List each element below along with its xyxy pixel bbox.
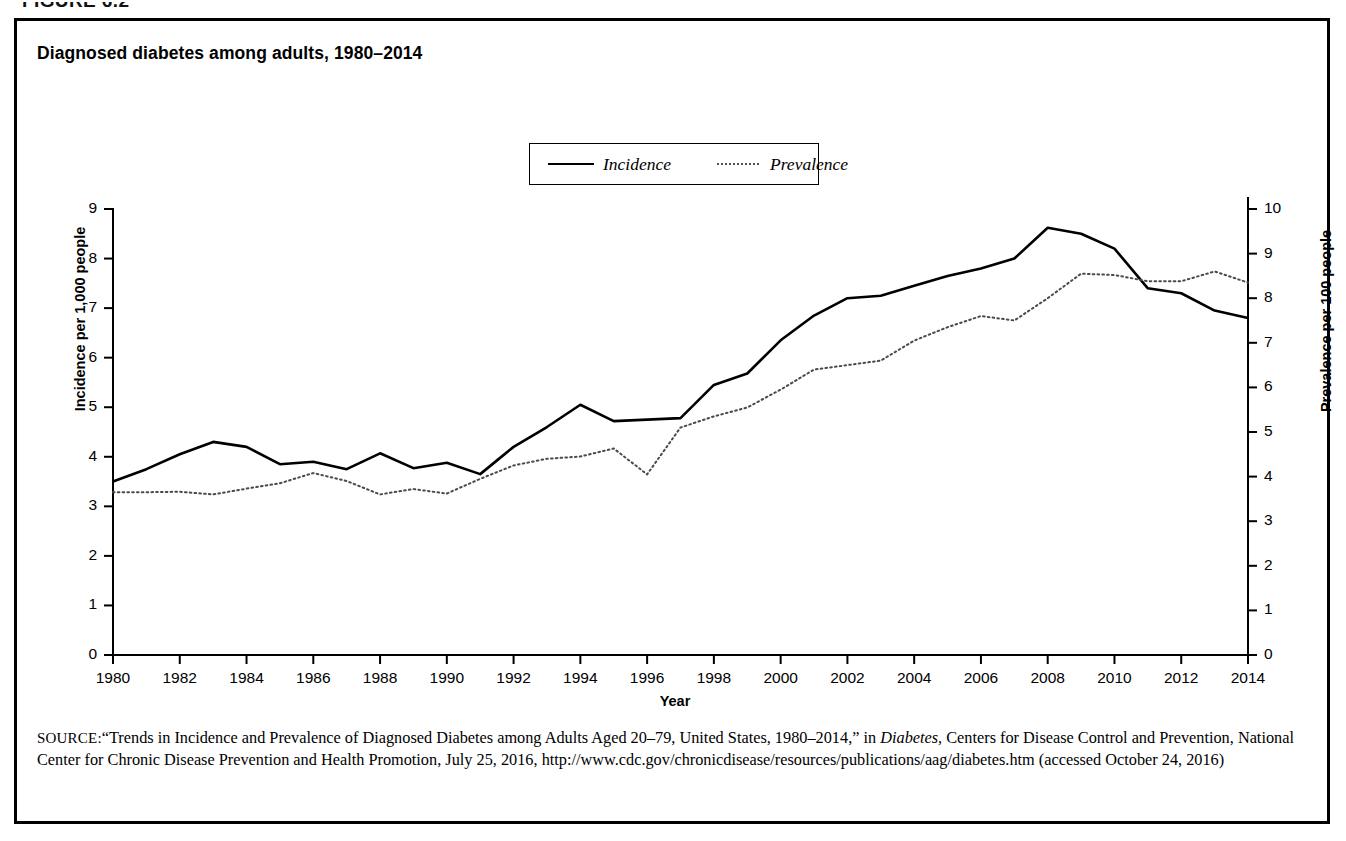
- source-italic-title: Diabetes: [880, 728, 938, 747]
- series-line-incidence: [113, 228, 1248, 482]
- y-axis-right-tick: 7: [1264, 333, 1304, 351]
- plot-area: Incidence per 1,000 people Prevalence pe…: [17, 21, 1333, 827]
- y-axis-left-tick: 7: [57, 298, 97, 316]
- figure-page: FIGURE 6.2 Diagnosed diabetes among adul…: [0, 0, 1346, 841]
- y-axis-right-tick: 5: [1264, 422, 1304, 440]
- y-axis-left-tick: 1: [57, 595, 97, 613]
- x-axis-tick: 1986: [283, 669, 343, 687]
- y-axis-right-tick: 4: [1264, 467, 1304, 485]
- x-axis-tick: 2010: [1084, 669, 1144, 687]
- y-axis-left-tick: 0: [57, 645, 97, 663]
- x-axis-tick: 2002: [817, 669, 877, 687]
- x-axis-tick: 2006: [951, 669, 1011, 687]
- figure-number: FIGURE 6.2: [22, 0, 129, 16]
- x-axis-tick: 1994: [550, 669, 610, 687]
- y-axis-right-tick: 1: [1264, 600, 1304, 618]
- y-axis-left-tick: 9: [57, 199, 97, 217]
- x-axis-tick: 1982: [150, 669, 210, 687]
- x-axis-tick: 1984: [217, 669, 277, 687]
- y-axis-right-tick: 8: [1264, 288, 1304, 306]
- x-axis-tick: 1990: [417, 669, 477, 687]
- y-axis-right-title: Prevalence per 100 people: [1318, 206, 1334, 436]
- x-axis-tick: 2008: [1018, 669, 1078, 687]
- x-axis-tick: 1988: [350, 669, 410, 687]
- y-axis-right-tick: 3: [1264, 511, 1304, 529]
- y-axis-left-tick: 2: [57, 546, 97, 564]
- chart-canvas: [17, 21, 1333, 721]
- x-axis-tick: 1992: [484, 669, 544, 687]
- y-axis-left-tick: 5: [57, 397, 97, 415]
- y-axis-right-tick: 0: [1264, 645, 1304, 663]
- y-axis-right-tick: 10: [1264, 199, 1304, 217]
- source-note: SOURCE:“Trends in Incidence and Prevalen…: [37, 727, 1311, 772]
- x-axis-tick: 2004: [884, 669, 944, 687]
- y-axis-right-tick: 6: [1264, 377, 1304, 395]
- source-label: SOURCE:: [37, 730, 102, 746]
- series-line-prevalence: [113, 271, 1248, 494]
- y-axis-left-tick: 8: [57, 249, 97, 267]
- y-axis-left-tick: 4: [57, 447, 97, 465]
- y-axis-right-tick: 2: [1264, 556, 1304, 574]
- x-axis-title: Year: [17, 693, 1333, 709]
- x-axis-tick: 2012: [1151, 669, 1211, 687]
- x-axis-tick: 1980: [83, 669, 143, 687]
- y-axis-left-tick: 6: [57, 348, 97, 366]
- x-axis-tick: 1998: [684, 669, 744, 687]
- x-axis-tick: 2014: [1218, 669, 1278, 687]
- y-axis-left-tick: 3: [57, 496, 97, 514]
- source-text-1: “Trends in Incidence and Prevalence of D…: [102, 728, 880, 747]
- figure-frame: Diagnosed diabetes among adults, 1980–20…: [14, 18, 1330, 824]
- x-axis-tick: 2000: [751, 669, 811, 687]
- x-axis-tick: 1996: [617, 669, 677, 687]
- y-axis-right-tick: 9: [1264, 244, 1304, 262]
